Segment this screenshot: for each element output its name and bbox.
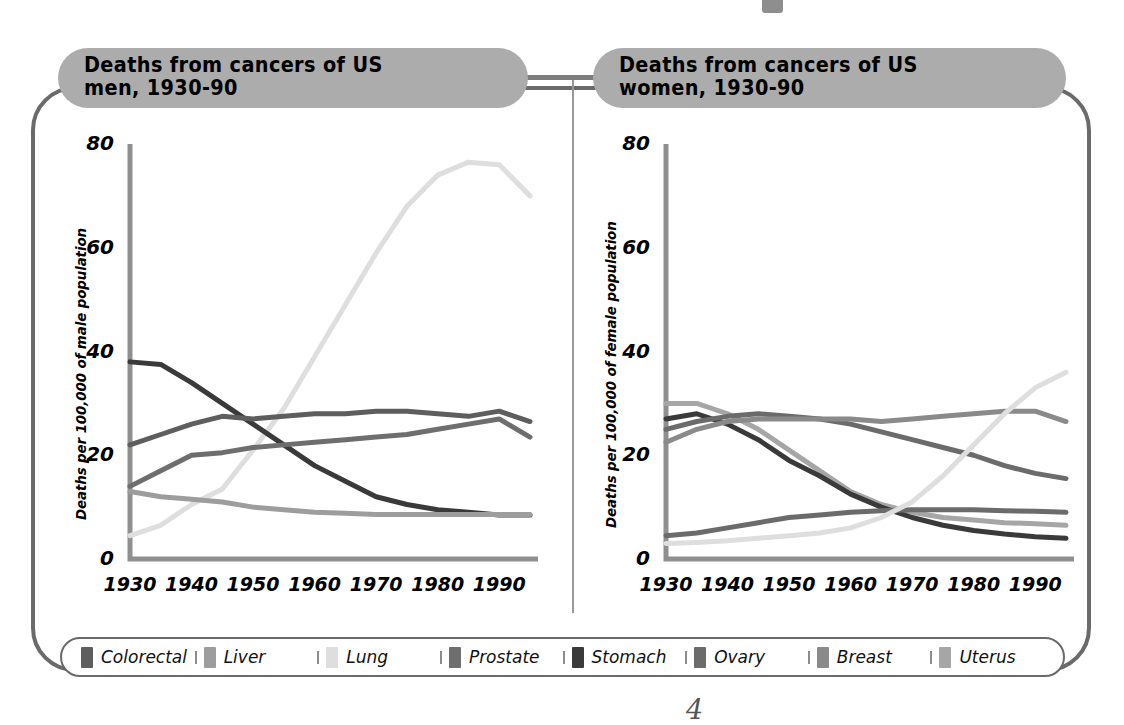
- legend-item-uterus[interactable]: Uterus: [930, 647, 1053, 668]
- x-tick-1990: 1990: [468, 573, 530, 595]
- series-line-lung: [130, 162, 530, 536]
- axis-lines: [666, 144, 1074, 559]
- x-tick-1930: 1930: [635, 573, 697, 595]
- legend-label-ovary: Ovary: [714, 647, 765, 667]
- x-tick-1980: 1980: [943, 573, 1005, 595]
- y-tick-40: 40: [606, 339, 650, 363]
- lung-swatch: [326, 647, 338, 668]
- x-tick-1980: 1980: [407, 573, 469, 595]
- series-line-stomach: [666, 414, 1066, 539]
- legend-label-lung: Lung: [346, 647, 388, 667]
- chart-panel-men: Deaths per 100,000 of male population 02…: [60, 130, 550, 615]
- axis-lines: [130, 144, 538, 559]
- legend-item-stomach[interactable]: Stomach: [563, 647, 686, 668]
- legend-item-liver[interactable]: Liver: [195, 647, 318, 668]
- x-tick-1970: 1970: [881, 573, 943, 595]
- legend-item-prostate[interactable]: Prostate: [440, 647, 563, 668]
- y-tick-80: 80: [70, 131, 114, 155]
- chart-title-men: Deaths from cancers of US men, 1930-90: [58, 48, 528, 108]
- series-line-stomach: [130, 362, 530, 515]
- plot-area-women: [658, 136, 1078, 576]
- chart-panel-women: Deaths per 100,000 of female population …: [596, 130, 1086, 615]
- y-tick-80: 80: [606, 131, 650, 155]
- y-axis-title-men: Deaths per 100,000 of male population: [74, 228, 89, 520]
- legend-item-lung[interactable]: Lung: [317, 647, 440, 668]
- legend-item-colorectal[interactable]: Colorectal: [72, 647, 195, 668]
- uterus-swatch: [939, 647, 951, 668]
- chart-title-men-text: Deaths from cancers of US men, 1930-90: [84, 54, 383, 100]
- ovary-swatch: [694, 647, 706, 668]
- y-tick-60: 60: [606, 235, 650, 259]
- x-tick-1960: 1960: [820, 573, 882, 595]
- y-tick-20: 20: [70, 442, 114, 466]
- legend-item-ovary[interactable]: Ovary: [685, 647, 808, 668]
- top-page-tab: [762, 0, 783, 13]
- liver-swatch: [204, 647, 216, 668]
- x-tick-1940: 1940: [161, 573, 223, 595]
- y-tick-40: 40: [70, 339, 114, 363]
- y-tick-20: 20: [606, 442, 650, 466]
- chart-title-women-text: Deaths from cancers of US women, 1930-90: [619, 54, 918, 100]
- breast-swatch: [817, 647, 829, 668]
- x-tick-1970: 1970: [345, 573, 407, 595]
- y-tick-0: 0: [606, 546, 650, 570]
- series-line-lung: [666, 372, 1066, 543]
- title-connector: [527, 75, 595, 80]
- x-tick-1960: 1960: [284, 573, 346, 595]
- prostate-swatch: [449, 647, 461, 668]
- colorectal-swatch: [81, 647, 93, 668]
- x-tick-1930: 1930: [99, 573, 161, 595]
- chart-legend: ColorectalLiverLungProstateStomachOvaryB…: [60, 637, 1065, 677]
- legend-label-breast: Breast: [837, 647, 892, 667]
- x-tick-1990: 1990: [1004, 573, 1066, 595]
- panel-divider: [572, 78, 574, 613]
- legend-label-stomach: Stomach: [592, 647, 667, 667]
- legend-label-uterus: Uterus: [959, 647, 1015, 667]
- legend-label-liver: Liver: [224, 647, 266, 667]
- y-axis-title-women: Deaths per 100,000 of female population: [604, 221, 619, 528]
- chart-title-women: Deaths from cancers of US women, 1930-90: [593, 48, 1066, 108]
- y-tick-0: 0: [70, 546, 114, 570]
- legend-item-breast[interactable]: Breast: [808, 647, 931, 668]
- stomach-swatch: [572, 647, 584, 668]
- page-number: 4: [686, 694, 703, 725]
- series-line-prostate: [130, 419, 530, 486]
- legend-label-colorectal: Colorectal: [101, 647, 187, 667]
- legend-label-prostate: Prostate: [469, 647, 540, 667]
- x-tick-1950: 1950: [222, 573, 284, 595]
- x-tick-1950: 1950: [758, 573, 820, 595]
- x-tick-1940: 1940: [697, 573, 759, 595]
- plot-area-men: [122, 136, 542, 576]
- y-tick-60: 60: [70, 235, 114, 259]
